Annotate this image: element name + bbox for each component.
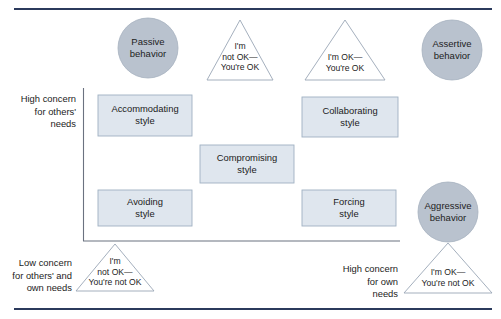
- label-avoiding-style: Avoiding style: [98, 196, 192, 220]
- label-assertive-behavior: Assertive behavior: [412, 38, 492, 62]
- axis-label-high-concern-others: High concern for others' needs: [4, 93, 76, 131]
- conflict-styles-diagram: Passive behavior Assertive behavior Aggr…: [0, 0, 501, 319]
- label-im-ok-youre-ok: I'm OK— You're OK: [307, 52, 383, 73]
- label-aggressive-behavior: Aggressive behavior: [406, 200, 490, 224]
- axis-label-low-concern-others: Low concern for others' and own needs: [0, 257, 72, 295]
- label-compromising-style: Compromising style: [200, 152, 294, 176]
- label-forcing-style: Forcing style: [302, 196, 396, 220]
- label-im-not-ok-youre-not-ok: I'm not OK— You're not OK: [75, 256, 155, 288]
- label-im-not-ok-youre-ok: I'm not OK— You're OK: [206, 41, 274, 73]
- axis-label-high-concern-own: High concern for own needs: [318, 263, 398, 301]
- label-collaborating-style: Collaborating style: [302, 105, 398, 129]
- label-accommodating-style: Accommodating style: [98, 103, 192, 127]
- label-passive-behavior: Passive behavior: [108, 36, 188, 60]
- label-im-ok-youre-not-ok: I'm OK— You're not OK: [402, 267, 494, 288]
